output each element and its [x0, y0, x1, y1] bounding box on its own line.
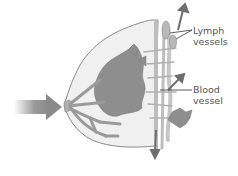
blood-vessel-label: Blood vessel	[193, 85, 223, 106]
incoming-arrow	[14, 94, 62, 120]
lymph-vessels-label: Lymph vessels	[193, 26, 228, 47]
